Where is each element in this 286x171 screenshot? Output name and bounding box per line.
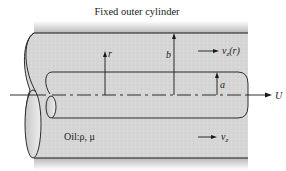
label-U: U: [275, 90, 283, 101]
annular-flow-diagram: Fixed outer cylinder U r b a vz(r) Oil:ρ…: [0, 0, 286, 171]
outer-cylinder-end-ellipse: [25, 90, 41, 158]
velocity-U-arrowhead: [265, 93, 272, 98]
fluid-label: Oil:ρ, μ: [64, 131, 95, 142]
inner-cylinder-end-ellipse: [46, 96, 56, 118]
outer-cylinder-title: Fixed outer cylinder: [94, 6, 180, 17]
label-a: a: [220, 79, 225, 90]
label-b: b: [166, 49, 171, 60]
label-r: r: [108, 48, 112, 59]
outer-wall-top-shadow: [34, 21, 248, 33]
outer-wall-bottom-shadow: [34, 158, 248, 170]
